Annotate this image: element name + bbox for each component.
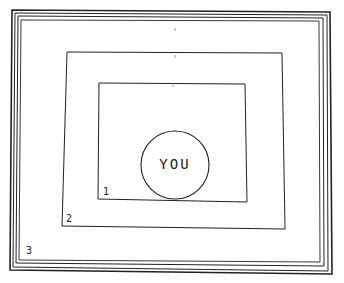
- frame-3-label: 3: [26, 245, 33, 256]
- nested-frames-diagram: YOU 1 2 3: [0, 0, 344, 283]
- frame-1-label: 1: [103, 186, 110, 197]
- frame-1: [98, 83, 247, 202]
- diagram-lines: [0, 0, 344, 283]
- frame-2: [62, 52, 285, 229]
- frame-2-label: 2: [66, 213, 73, 224]
- you-label: YOU: [145, 156, 205, 172]
